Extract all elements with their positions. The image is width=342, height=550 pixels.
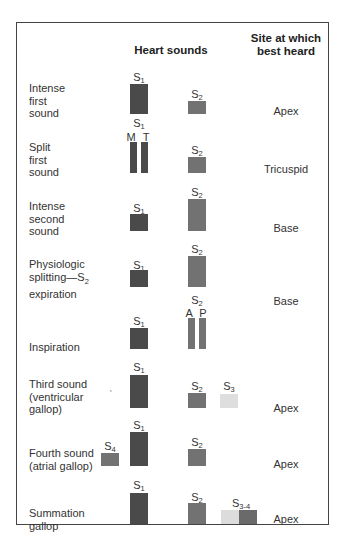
s1-bar [130,214,148,231]
s1-label: S1 [124,118,154,132]
site-apex: Apex [246,105,326,117]
split-ap-labels: A P [182,308,212,319]
s1-mitral-bar [130,142,137,173]
s3-label: S3 [214,381,244,395]
row-label-third-sound: Third sound(ventriculargallop) [29,378,87,416]
s1-bar [130,328,148,349]
s1-bar [130,84,148,114]
site-header-line1: Site at which [246,32,326,45]
s2-bar [188,393,206,408]
row-label-physiologic-splitting: Physiologic splitting—S2 expiration [29,258,89,301]
s2-bar [188,199,206,231]
site-apex: Apex [246,402,326,414]
site-header: Site at which best heard [246,32,326,58]
s2-bar [188,503,206,524]
s1-bar [130,493,148,524]
s2-bar [188,256,206,287]
site-base: Base [246,222,326,234]
s34-light-bar [221,510,239,524]
s1-label: S1 [124,362,154,376]
s2-pulmonic-bar [199,318,206,349]
s3-bar [220,394,238,408]
row-label-intense-first: Intensefirstsound [29,82,65,120]
s2-aortic-bar [188,318,195,349]
row-label-summation-gallop: Summationgallop [29,507,85,532]
row-label-intense-second: Intensesecondsound [29,200,65,238]
site-tricuspid: Tricuspid [246,163,326,175]
site-apex: Apex [246,513,326,525]
stray-mark: ᵋ [110,389,112,395]
s1-tricuspid-bar [141,142,148,173]
s1-bar [130,432,148,466]
s2-bar [188,157,206,173]
s2-bar [188,449,206,466]
site-base: Base [246,295,326,307]
row-label-inspiration: Inspiration [29,341,80,354]
s4-bar [101,453,119,466]
row-label-fourth-sound: Fourth sound(atrial gallop) [29,447,94,472]
heart-sounds-header: Heart sounds [121,44,221,57]
s2-bar [188,101,206,114]
s1-bar [130,375,148,408]
s1-bar [130,270,148,287]
site-apex: Apex [246,458,326,470]
split-mt-labels: M T [124,132,154,143]
site-header-line2: best heard [246,45,326,58]
row-label-split-first: Splitfirstsound [29,141,59,179]
s1-label: S1 [124,480,154,494]
